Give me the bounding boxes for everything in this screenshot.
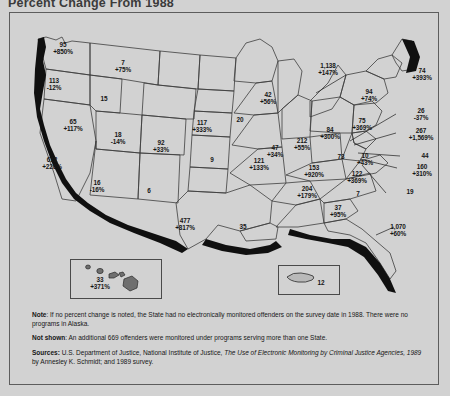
sources-text-2: by Annesley K. Schmidt; and 1989 survey. — [32, 358, 153, 365]
state-label: 7 — [335, 190, 381, 197]
state-label: 37 +95% — [315, 204, 361, 218]
state-label: 1,070 +60% — [375, 223, 421, 237]
sources-text-1: U.S. Department of Justice, National Ins… — [60, 349, 224, 356]
not-shown-text: : An additional 669 offenders were monit… — [65, 334, 327, 341]
state-label: 15 — [81, 95, 127, 102]
state-label: 160 +310% — [399, 163, 445, 177]
hawaii-inset: 33 +371% — [70, 259, 162, 299]
state-label: 267 +1,569% — [398, 127, 444, 141]
state-label: 65 +117% — [50, 118, 96, 132]
state-label: 75 +369% — [339, 117, 385, 131]
state-label: 26 -37% — [398, 107, 444, 121]
state-label: 44 — [402, 152, 448, 159]
hawaii-label: 33 +371% — [79, 276, 121, 290]
state-label: 95 +850% — [40, 41, 86, 55]
state-label: 16 -16% — [74, 179, 120, 193]
figure-frame: 95 +850% 113 -12% 7 +75% 15 65 +117% 18 … — [9, 12, 439, 385]
us-map: 95 +850% 113 -12% 7 +75% 15 65 +117% 18 … — [10, 13, 438, 303]
state-label: 612 +226% — [29, 156, 75, 170]
note-label: Note — [32, 311, 46, 318]
not-shown-line: Not shown: An additional 669 offenders w… — [32, 333, 424, 342]
state-label: 10 +43% — [342, 152, 388, 166]
sources-line: Sources: U.S. Department of Justice, Nat… — [32, 348, 424, 366]
note-text: : If no percent change is noted, the Sta… — [32, 311, 408, 327]
state-label: 7 +75% — [100, 59, 146, 73]
state-label: 74 +393% — [399, 67, 445, 81]
state-label: 35 — [220, 223, 266, 230]
sources-title: The Use of Electronic Monitoring by Crim… — [224, 349, 421, 356]
state-label: 19 — [387, 188, 433, 195]
state-label: 122 +369% — [334, 170, 380, 184]
note-line: Note: If no percent change is noted, the… — [32, 310, 424, 328]
sources-label: Sources: — [32, 349, 60, 356]
alaska-label: 12 — [312, 279, 330, 286]
not-shown-label: Not shown — [32, 334, 65, 341]
state-label: 477 +817% — [162, 217, 208, 231]
state-label: 18 -14% — [95, 131, 141, 145]
state-label: 153 +920% — [291, 164, 337, 178]
state-label: 1,138 +147% — [305, 62, 351, 76]
state-label: 42 +56% — [245, 91, 291, 105]
state-label: 9 — [189, 156, 235, 163]
state-label: 204 +179% — [284, 185, 330, 199]
state-label: 94 +74% — [346, 88, 392, 102]
state-label: 6 — [126, 187, 172, 194]
state-label: 92 +33% — [138, 139, 184, 153]
state-label: 113 -12% — [31, 77, 77, 91]
state-label: 121 +133% — [236, 157, 282, 171]
alaska-inset: 12 — [278, 265, 340, 295]
figure-notes: Note: If no percent change is noted, the… — [32, 310, 424, 366]
state-label: 20 — [217, 116, 263, 123]
page-title: Percent Change From 1988 — [8, 0, 174, 10]
